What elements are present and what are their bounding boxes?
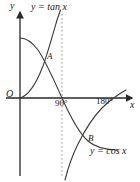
y-axis-label: y	[10, 1, 14, 11]
x-axis-label: x	[130, 100, 134, 110]
origin-label: O	[6, 89, 13, 99]
x-tick-label-180: 180°	[96, 97, 113, 106]
cosine-curve-label: y = cos x	[90, 146, 126, 156]
point-a-label: A	[47, 52, 53, 61]
tangent-curve-label: y = tan x	[31, 2, 67, 12]
trig-graph-figure: y x O y = tan x y = cos x A B 90° 180°	[0, 0, 140, 182]
cosine-curve	[20, 38, 118, 150]
point-b-label: B	[88, 134, 94, 143]
x-tick-label-90: 90°	[55, 99, 68, 108]
